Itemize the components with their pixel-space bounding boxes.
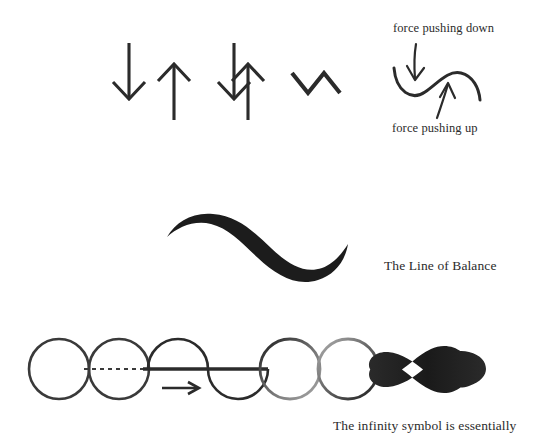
caption-force-pushing-up: force pushing up: [392, 121, 478, 136]
tangent-circle-right: [318, 339, 378, 399]
arrow-up-icon: [158, 64, 190, 120]
arrow-up-icon: [437, 83, 455, 118]
s-curve-with-force-arrows: [394, 44, 480, 118]
opposing-arrows-overlapping: [218, 43, 264, 120]
s-curve-path: [394, 68, 480, 100]
arrow-right-icon: [162, 382, 199, 394]
two-tangent-circles: [260, 339, 378, 399]
plain-circle: [29, 339, 89, 399]
split-circle-sine: [143, 339, 268, 399]
arrow-down-icon: [407, 44, 424, 80]
caption-line-of-balance: The Line of Balance: [384, 258, 496, 274]
arrow-down-icon: [218, 43, 250, 99]
zigzag-angle-icon: [292, 73, 340, 93]
diagram-canvas: [0, 0, 538, 439]
circle-with-dashed-diameter: [84, 339, 154, 399]
caption-infinity-symbol: The infinity symbol is essentially: [333, 418, 516, 434]
caption-force-pushing-down: force pushing down: [393, 21, 494, 36]
line-of-balance-stroke: [167, 214, 348, 282]
arrow-down-icon: [113, 43, 145, 99]
arrow-up-icon: [232, 64, 264, 120]
tangent-circle-left: [260, 339, 320, 399]
opposing-arrows-separated: [113, 43, 190, 120]
diagram-page: force pushing down force pushing up The …: [0, 0, 538, 439]
infinity-symbol: [369, 346, 486, 393]
